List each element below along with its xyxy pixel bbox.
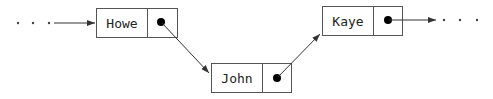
node-john: John: [212, 64, 292, 93]
node-label: John: [221, 71, 252, 86]
ellipsis-left: [17, 22, 50, 24]
edge-john-to-kaye: [278, 34, 320, 77]
node-kaye: Kaye: [323, 7, 403, 36]
node-label: Kaye: [332, 14, 363, 29]
node-howe: Howe: [97, 9, 178, 38]
edge-howe-to-john: [162, 23, 209, 73]
linked-list-diagram: Howe John Kaye: [0, 0, 493, 99]
node-label: Howe: [106, 16, 137, 31]
ellipsis-right: [443, 19, 478, 21]
